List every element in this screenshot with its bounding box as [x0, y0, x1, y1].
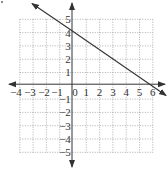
svg-text:−4: −4: [10, 86, 22, 98]
stray-dot: [1, 1, 3, 3]
svg-text:−2: −2: [38, 86, 50, 98]
svg-text:5: 5: [137, 86, 143, 98]
svg-text:−5: −5: [59, 146, 71, 158]
svg-text:5: 5: [65, 13, 71, 25]
svg-text:−1: −1: [59, 93, 71, 105]
axes: [9, 3, 165, 167]
svg-text:−3: −3: [24, 86, 36, 98]
svg-text:1: 1: [65, 66, 71, 78]
svg-text:3: 3: [65, 40, 71, 52]
svg-text:3: 3: [110, 86, 116, 98]
svg-text:−4: −4: [59, 133, 71, 145]
svg-text:6: 6: [150, 86, 156, 98]
coordinate-plane: −4 −3 −2 −1 0 1 2 3 4 5 6 5 4 3 2 1 −1 −…: [0, 0, 167, 170]
svg-text:0: 0: [72, 86, 78, 98]
x-tick-labels: −4 −3 −2 −1 0 1 2 3 4 5 6: [10, 86, 156, 98]
svg-text:−3: −3: [59, 120, 71, 132]
svg-text:4: 4: [65, 27, 71, 39]
svg-text:2: 2: [65, 53, 71, 65]
svg-text:2: 2: [97, 86, 103, 98]
svg-text:−2: −2: [59, 106, 71, 118]
plotted-line: [32, 4, 166, 96]
svg-text:1: 1: [84, 86, 90, 98]
svg-text:4: 4: [123, 86, 129, 98]
